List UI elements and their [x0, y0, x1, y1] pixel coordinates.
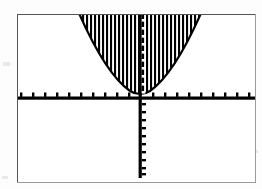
- screenshot-root: [0, 0, 262, 189]
- shaded-parabola-region: [18, 15, 255, 115]
- x-axis-ticks-right: [152, 93, 250, 97]
- calculator-screen[interactable]: [17, 14, 256, 183]
- x-axis-line: [18, 97, 255, 100]
- plot-area[interactable]: [18, 15, 255, 182]
- scan-smudge: [3, 62, 10, 66]
- x-axis-ticks-left: [20, 93, 130, 97]
- graph-canvas[interactable]: [18, 15, 255, 182]
- y-axis-line: [139, 15, 142, 178]
- scan-smudge: [2, 176, 8, 179]
- y-axis-ticks-below: [142, 103, 146, 175]
